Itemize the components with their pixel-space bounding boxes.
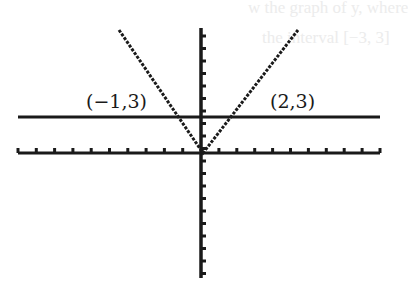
point-label-right: (2,3) [270, 90, 315, 112]
point-label-left: (−1,3) [86, 90, 147, 112]
